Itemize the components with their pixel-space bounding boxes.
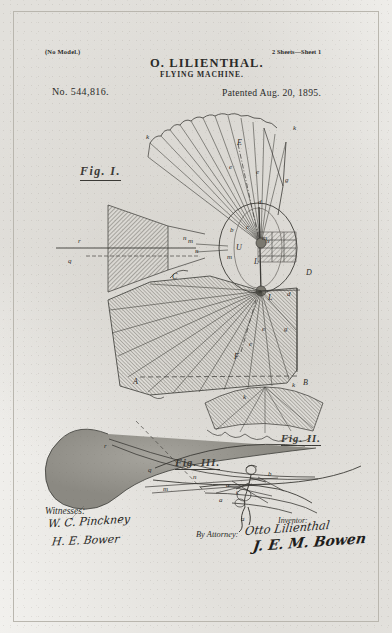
sheet-border (13, 11, 379, 622)
patent-drawing-sheet: (No Model.) 2 Sheets—Sheet 1 O. LILIENTH… (0, 0, 392, 633)
